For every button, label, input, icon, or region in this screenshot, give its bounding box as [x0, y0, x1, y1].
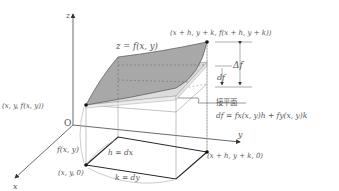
base-end-label: (x + h, y + k, 0) [207, 152, 263, 160]
point-start [84, 103, 88, 107]
x-axis-label: x [13, 182, 18, 191]
y-axis-label: y [237, 130, 243, 139]
base-rectangle [86, 137, 207, 179]
total-differential-diagram: z y x O z = f(x, y) (x + h, y + k, f(x +… [0, 0, 339, 191]
tangent-plane-label: 接平面 [216, 97, 238, 107]
surface-label: z = f(x, y) [115, 41, 158, 51]
df-formula: df = fx(x, y)h + fy(x, y)k [216, 111, 308, 120]
z-axis-label: z [65, 11, 71, 20]
k-edge-label: k = dy [115, 173, 140, 182]
h-edge-label: h = dx [108, 148, 134, 157]
delta-f-label: Δf [232, 60, 244, 70]
base-start-label: (x, y, 0) [58, 169, 84, 177]
top-right-point-label: (x + h, y + k, f(x + h, y + k)) [170, 29, 272, 37]
point-base-start [84, 163, 88, 167]
start-point-label: (x, y, f(x, y)) [2, 102, 44, 110]
y-axis [73, 125, 240, 142]
height-label: f(x, y) [56, 145, 79, 154]
df-label: df [217, 73, 227, 82]
point-top-right [205, 40, 209, 44]
origin-label: O [64, 118, 71, 128]
